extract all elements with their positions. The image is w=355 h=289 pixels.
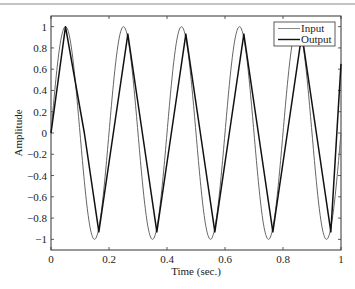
plot-area: 00.20.40.60.81 10.80.60.40.20−0.2−0.4−0.… (27, 16, 344, 265)
chart: 00.20.40.60.81 10.80.60.40.20−0.2−0.4−0.… (0, 0, 355, 289)
series-layer (51, 27, 341, 240)
x-axis-label: Time (sec.) (171, 265, 221, 278)
x-tick-label: 0.4 (160, 253, 174, 265)
y-tick-label: 0.2 (33, 106, 47, 118)
x-tick-label: 0.2 (102, 253, 116, 265)
y-tick-label: 1 (42, 21, 48, 33)
series-input-line (51, 27, 341, 240)
y-tick-label: −0.6 (27, 191, 47, 203)
x-tick-label: 0 (48, 253, 54, 265)
x-tick-label: 0.8 (276, 253, 290, 265)
y-tick-label: 0.4 (33, 84, 47, 96)
y-axis: 10.80.60.40.20−0.2−0.4−0.6−0.8−1 (27, 21, 341, 246)
y-tick-label: −0.4 (27, 170, 47, 182)
y-tick-label: 0.8 (33, 42, 47, 54)
x-tick-label: 0.6 (218, 253, 232, 265)
y-tick-label: −0.8 (27, 212, 47, 224)
x-tick-label: 1 (338, 253, 344, 265)
y-tick-label: 0 (42, 127, 48, 139)
legend: Input Output (274, 22, 335, 46)
y-axis-label: Amplitude (12, 109, 24, 156)
y-tick-label: −1 (35, 233, 47, 245)
y-tick-label: 0.6 (33, 63, 47, 75)
y-tick-label: −0.2 (27, 148, 47, 160)
legend-output-label: Output (301, 33, 332, 45)
